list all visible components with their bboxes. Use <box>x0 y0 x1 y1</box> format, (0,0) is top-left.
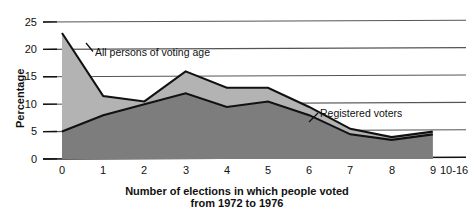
y-tick-label-20: 20 <box>11 43 37 55</box>
gridline-25 <box>43 20 466 22</box>
series-label-all-persons-of-voting-age: All persons of voting age <box>95 46 210 58</box>
x-tick-label-2: 2 <box>141 164 147 176</box>
x-axis-title: Number of elections in which people vote… <box>0 185 474 209</box>
x-tick-label-6: 6 <box>306 164 312 176</box>
x-tick-label-9: 9 <box>430 164 436 176</box>
x-axis-title-line1: Number of elections in which people vote… <box>125 185 349 197</box>
area-chart-canvas <box>0 0 474 213</box>
x-tick-label-1: 1 <box>100 164 106 176</box>
x-tick-label-8: 8 <box>389 164 395 176</box>
x-tick-label-10-16: 10-16 <box>440 164 468 176</box>
chart-figure: Percentage 25 20 15 10 5 0 0 1 2 3 4 5 6… <box>0 0 474 213</box>
x-tick-label-5: 5 <box>265 164 271 176</box>
x-tick-label-3: 3 <box>183 164 189 176</box>
y-tick-label-10: 10 <box>11 98 37 110</box>
x-tick-label-4: 4 <box>224 164 230 176</box>
y-tick-label-0: 0 <box>11 153 37 165</box>
gridline-15 <box>43 75 466 77</box>
x-tick-label-7: 7 <box>347 164 353 176</box>
x-axis-title-line2: from 1972 to 1976 <box>0 197 474 209</box>
y-tick-label-5: 5 <box>11 125 37 137</box>
y-tick-marks <box>43 22 57 159</box>
series-label-registered-voters: Registered voters <box>320 107 402 119</box>
y-tick-label-15: 15 <box>11 70 37 82</box>
x-tick-label-0: 0 <box>59 164 65 176</box>
y-tick-label-25: 25 <box>11 16 37 28</box>
leader-line-all-persons <box>86 43 93 52</box>
